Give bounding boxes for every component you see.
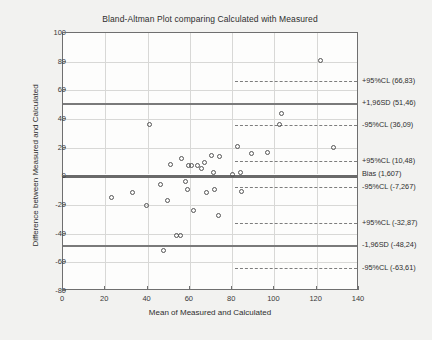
reference-line-label: +1,96SD (51,46) [362,97,416,106]
x-tick-mark [147,286,148,290]
plot-area [62,32,358,290]
data-point [279,111,284,116]
gridline-horizontal [63,90,357,91]
y-tick-mark [62,61,66,62]
x-tick-mark [316,286,317,290]
data-point [109,195,114,200]
y-tick-mark [62,118,66,119]
data-point [217,154,222,159]
data-point [144,203,149,208]
data-point [249,151,254,156]
reference-line-label: -95%CL (-63,61) [362,262,416,271]
y-axis-title: Difference between Measured and Calculat… [31,41,40,291]
data-point [185,187,190,192]
data-point [191,208,196,213]
reference-line-label: -95%CL (-7,267) [362,181,416,190]
y-tick-mark [62,204,66,205]
data-point [158,182,163,187]
data-point [147,122,152,127]
gridline-vertical [190,33,191,289]
data-point [209,153,214,158]
bland-altman-chart: Bland-Altman Plot comparing Calculated w… [0,0,432,340]
gridline-horizontal [63,262,357,263]
reference-line [235,187,357,188]
data-point [199,166,204,171]
data-point [183,179,188,184]
gridline-vertical [232,33,233,289]
gridline-horizontal [63,62,357,63]
data-point [265,150,270,155]
gridline-horizontal [63,148,357,149]
reference-line [63,174,357,178]
x-tick-mark [62,286,63,290]
data-point [277,122,282,127]
data-point [161,248,166,253]
x-tick-mark [273,286,274,290]
reference-line [235,81,357,82]
data-point [230,172,235,177]
reference-line [235,125,357,126]
reference-line [235,268,357,269]
gridline-vertical [105,33,106,289]
data-point [212,187,217,192]
y-tick-mark [62,147,66,148]
chart-title: Bland-Altman Plot comparing Calculated w… [62,14,358,24]
data-point [189,163,194,168]
gridline-horizontal [63,119,357,120]
x-tick-label: 60 [174,294,204,303]
x-tick-mark [189,286,190,290]
data-point [178,233,183,238]
y-tick-mark [62,32,66,33]
data-point [211,170,216,175]
reference-line [235,223,357,224]
gridline-vertical [148,33,149,289]
x-tick-label: 80 [216,294,246,303]
data-point [216,213,221,218]
reference-line-label: +95%CL (-32,87) [362,218,418,227]
x-tick-mark [231,286,232,290]
reference-line-label: +95%CL (66,83) [362,75,415,84]
x-tick-label: 100 [258,294,288,303]
gridline-horizontal [63,234,357,235]
y-tick-mark [62,290,66,291]
y-tick-mark [62,89,66,90]
gridline-horizontal [63,205,357,206]
reference-line [235,161,357,162]
x-tick-label: 120 [301,294,331,303]
x-tick-mark [358,286,359,290]
x-tick-mark [104,286,105,290]
data-point [331,145,336,150]
x-axis-title: Mean of Measured and Calculated [62,308,358,317]
data-point [179,156,184,161]
reference-line-label: -1,96SD (-48,24) [362,240,416,249]
data-point [202,160,207,165]
data-point [235,144,240,149]
x-tick-label: 140 [343,294,373,303]
x-tick-label: 20 [89,294,119,303]
y-tick-mark [62,261,66,262]
data-point [204,190,209,195]
data-point [168,162,173,167]
reference-line [63,245,357,247]
x-tick-label: 40 [132,294,162,303]
data-point [165,198,170,203]
data-point [239,189,244,194]
x-tick-label: 0 [47,294,77,303]
y-tick-mark [62,175,66,176]
data-point [130,190,135,195]
reference-line-label: -95%CL (36,09) [362,119,413,128]
reference-line-label: Bias (1,607) [362,169,401,178]
reference-line [63,103,357,105]
reference-line-label: +95%CL (10,48) [362,156,415,165]
y-tick-mark [62,233,66,234]
